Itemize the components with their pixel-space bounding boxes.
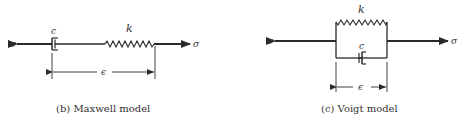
maxwell-model: σ c k σ ϵ (b) Maxwell model <box>10 22 200 114</box>
voigt-caption: (c) Voigt model <box>321 103 398 114</box>
spring-label: k <box>126 22 133 35</box>
sigma-left-label: σ <box>267 36 274 46</box>
voigt-model: σ k c σ ϵ (c) Voigt model <box>267 3 458 114</box>
viscoelastic-models-diagram: σ c k σ ϵ (b) Maxwell model σ <box>0 0 463 124</box>
damper-label: c <box>359 41 364 51</box>
spring-icon <box>105 41 154 47</box>
spring-label: k <box>358 3 365 16</box>
sigma-right-label: σ <box>193 39 200 49</box>
strain-label: ϵ <box>358 82 363 92</box>
damper-label: c <box>51 26 56 36</box>
maxwell-caption: (b) Maxwell model <box>56 103 150 114</box>
spring-icon <box>336 20 387 25</box>
sigma-right-label: σ <box>451 36 458 46</box>
sigma-left-label: σ <box>10 39 17 49</box>
strain-label: ϵ <box>101 67 106 77</box>
